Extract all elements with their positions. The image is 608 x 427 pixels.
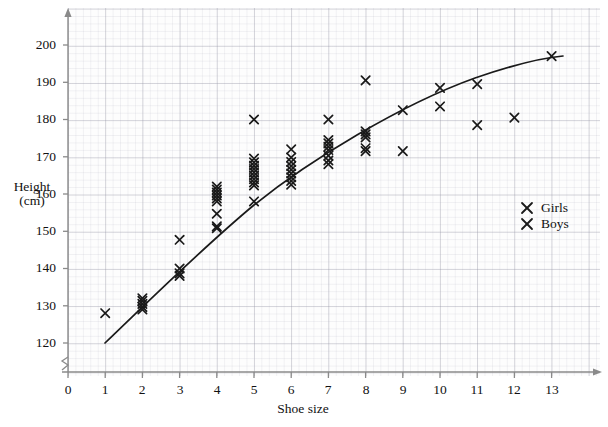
plot-canvas <box>0 0 608 427</box>
x-tick-label-1: 1 <box>95 382 115 398</box>
x-tick-label-2: 2 <box>132 382 152 398</box>
x-tick-label-4: 4 <box>207 382 227 398</box>
x-tick-label-8: 8 <box>356 382 376 398</box>
y-tick-label-130: 130 <box>10 298 56 314</box>
legend-label-girls: Girls <box>541 200 568 216</box>
legend-label-boys: Boys <box>541 216 569 232</box>
x-tick-label-13: 13 <box>542 382 562 398</box>
y-tick-label-120: 120 <box>10 335 56 351</box>
y-tick-label-200: 200 <box>10 37 56 53</box>
data-point-markers <box>101 52 556 317</box>
x-tick-label-11: 11 <box>467 382 487 398</box>
trend-line-curve <box>105 56 563 343</box>
x-tick-label-0: 0 <box>58 382 78 398</box>
legend-marker-boys <box>522 219 532 229</box>
x-tick-label-12: 12 <box>504 382 524 398</box>
x-tick-marks <box>68 372 552 378</box>
y-axis-title-line1: Height <box>14 179 51 194</box>
y-axis-title: Height (cm) <box>2 180 62 208</box>
y-tick-label-150: 150 <box>10 223 56 239</box>
y-tick-label-180: 180 <box>10 111 56 127</box>
x-tick-label-10: 10 <box>430 382 450 398</box>
x-tick-label-9: 9 <box>393 382 413 398</box>
x-tick-label-3: 3 <box>170 382 190 398</box>
legend-marker-girls <box>522 203 532 213</box>
x-tick-label-7: 7 <box>318 382 338 398</box>
y-tick-label-140: 140 <box>10 260 56 276</box>
x-tick-label-6: 6 <box>281 382 301 398</box>
y-tick-label-170: 170 <box>10 149 56 165</box>
y-tick-marks <box>63 45 68 343</box>
y-axis-title-line2: (cm) <box>19 193 44 208</box>
x-axis-title: Shoe size <box>258 401 348 417</box>
y-axis <box>64 8 71 372</box>
x-tick-label-5: 5 <box>244 382 264 398</box>
scatter-plot-figure: 120 130 140 150 160 170 180 190 200 0 1 … <box>0 0 608 427</box>
y-tick-label-190: 190 <box>10 74 56 90</box>
y-axis-break-symbol <box>62 357 68 370</box>
